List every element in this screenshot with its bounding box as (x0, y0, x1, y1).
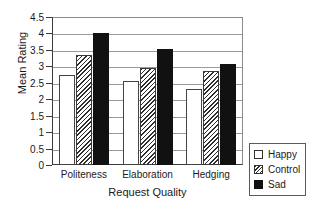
x-axis-category-label: Hedging (193, 169, 230, 180)
legend-label: Control (268, 164, 300, 175)
y-axis-tick-mark (46, 132, 52, 133)
bar-hedging-sad (220, 64, 236, 165)
y-axis-tick-label: 0.5 (0, 143, 44, 154)
y-axis-tick-mark (46, 99, 52, 100)
y-axis-tick-label: 4 (0, 28, 44, 39)
bar-politeness-sad (93, 33, 109, 165)
bar-elaboration-control (140, 68, 156, 165)
legend-item-control[interactable]: Control (254, 162, 300, 177)
y-axis-tick-label: 2 (0, 94, 44, 105)
legend-swatch-sad-icon (254, 180, 263, 189)
bar-politeness-control (76, 55, 92, 165)
x-axis-category-label: Politeness (61, 169, 107, 180)
y-axis-tick-label: 1 (0, 127, 44, 138)
y-axis-tick-label: 1.5 (0, 110, 44, 121)
bar-hedging-happy (186, 89, 202, 165)
y-axis-tick-mark (46, 17, 52, 18)
y-axis-tick-label: 3 (0, 61, 44, 72)
bar-hedging-control (203, 71, 219, 165)
bar-elaboration-happy (123, 81, 139, 165)
y-axis-tick-label: 4.5 (0, 12, 44, 23)
x-axis-category-label: Elaboration (122, 169, 173, 180)
y-axis-tick-mark (46, 116, 52, 117)
y-axis-tick-label: 3.5 (0, 44, 44, 55)
x-axis-title: Request Quality (52, 186, 243, 198)
y-axis-tick-label: 2.5 (0, 77, 44, 88)
legend-item-sad[interactable]: Sad (254, 177, 300, 192)
bar-chart-figure: Mean Rating 4.543.532.521.510.50 Politen… (0, 0, 321, 211)
chart-legend: HappyControlSad (249, 143, 306, 196)
y-axis-tick-mark (46, 50, 52, 51)
y-axis-tick-mark (46, 149, 52, 150)
y-axis-tick-mark (46, 165, 52, 166)
legend-item-happy[interactable]: Happy (254, 147, 300, 162)
y-axis-tick-mark (46, 83, 52, 84)
bar-politeness-happy (59, 75, 75, 165)
gridline (53, 51, 242, 52)
bar-elaboration-sad (157, 49, 173, 165)
y-axis-tick-label: 0 (0, 160, 44, 171)
y-axis-tick-mark (46, 33, 52, 34)
legend-swatch-happy-icon (254, 150, 263, 159)
gridline (53, 34, 242, 35)
legend-label: Sad (268, 179, 286, 190)
y-axis-tick-mark (46, 66, 52, 67)
legend-label: Happy (268, 149, 297, 160)
legend-swatch-control-icon (254, 165, 263, 174)
